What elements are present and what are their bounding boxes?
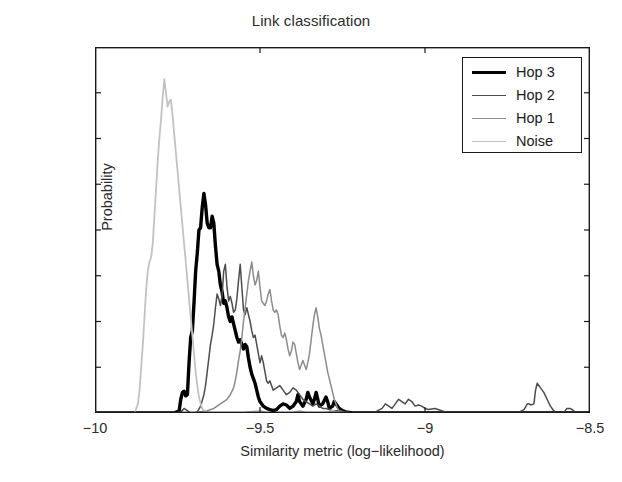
series-line-hop-2: [95, 264, 590, 413]
legend-line-swatch: [472, 71, 506, 74]
legend-item-hop-2[interactable]: Hop 2: [463, 83, 583, 107]
legend-line-swatch: [472, 95, 506, 96]
series-line-hop-1: [95, 262, 590, 413]
x-axis-label: Similarity metric (log−likelihood): [95, 443, 590, 459]
legend-item-hop-3[interactable]: Hop 3: [463, 60, 583, 84]
x-tick-label: −10: [65, 420, 125, 436]
legend-line-swatch: [472, 118, 506, 119]
x-tick-label: −8.5: [560, 420, 620, 436]
legend-label: Noise: [516, 134, 553, 149]
y-axis-label: Probability: [99, 127, 115, 267]
x-tick-label: −9: [395, 420, 455, 436]
legend: Hop 3Hop 2Hop 1Noise: [462, 57, 582, 153]
legend-line-swatch: [472, 141, 506, 142]
legend-label: Hop 1: [516, 111, 555, 126]
figure-container: Link classification Probability Similari…: [0, 0, 622, 482]
legend-item-hop-1[interactable]: Hop 1: [463, 106, 583, 130]
series-line-hop-3: [95, 193, 590, 413]
legend-label: Hop 2: [516, 88, 555, 103]
legend-item-noise[interactable]: Noise: [463, 129, 583, 153]
legend-label: Hop 3: [516, 65, 555, 80]
chart-title: Link classification: [0, 12, 622, 29]
x-tick-label: −9.5: [230, 420, 290, 436]
